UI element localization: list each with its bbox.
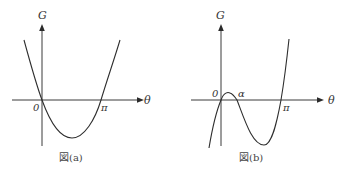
figure-b-pi-label: π: [283, 103, 290, 113]
figure-b-x-axis-label: θ: [328, 95, 335, 106]
figure-b-alpha-label: α: [238, 89, 245, 99]
figure-b: [191, 24, 324, 148]
figure-a-caption: 図(a): [59, 153, 83, 163]
figure-b-origin-label: 0: [212, 89, 218, 99]
figure-a-y-axis-label: G: [38, 10, 47, 21]
figure-a-pi-label: π: [101, 103, 108, 113]
figure-b-caption: 図(b): [239, 153, 263, 163]
figure-a-y-arrow-icon: [39, 24, 45, 31]
figure-b-y-axis-label: G: [216, 10, 225, 21]
figure-a-parabola-curve: [24, 40, 120, 138]
figure-a: [12, 24, 144, 146]
figure-a-x-axis-label: θ: [144, 95, 151, 106]
figure-b-x-arrow-icon: [317, 97, 324, 103]
figure-a-origin-label: 0: [33, 103, 39, 113]
diagram-canvas: [0, 0, 343, 175]
figure-b-y-arrow-icon: [218, 24, 224, 31]
figure-a-x-arrow-icon: [137, 97, 144, 103]
